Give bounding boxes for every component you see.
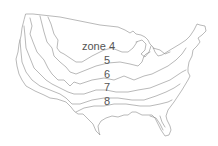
zone-label-5: 5 bbox=[104, 55, 110, 66]
zone-label-6: 6 bbox=[104, 69, 110, 80]
hardiness-zone-map: zone 4 5 6 7 8 bbox=[0, 0, 218, 146]
zone-boundary-8-9 bbox=[76, 100, 172, 112]
zone-label-4: zone 4 bbox=[82, 41, 115, 52]
zone-boundary-9-10 bbox=[150, 116, 163, 130]
zone-label-8: 8 bbox=[104, 96, 110, 107]
great-lakes bbox=[136, 40, 151, 57]
zone-label-7: 7 bbox=[104, 82, 110, 93]
